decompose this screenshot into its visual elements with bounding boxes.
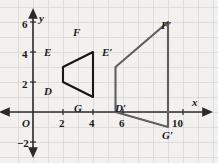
y-tick-label-6: 6 (22, 19, 28, 30)
y-axis-label: y (39, 13, 44, 24)
vertex-label-d: D (44, 86, 52, 97)
x-axis-label: x (192, 97, 198, 108)
vertex-label-g: G (74, 103, 82, 114)
y-tick-label-4: 4 (22, 49, 28, 60)
vertex-label-e: E (44, 47, 51, 58)
y-tick-label-neg2: −2 (17, 138, 29, 149)
coordinate-plot-svg (0, 0, 218, 163)
vertex-label-gp: G′ (162, 130, 173, 141)
coordinate-plane-figure: 6 4 2 −2 2 4 6 10 y x O EFDGE′F′D′G′ (0, 0, 218, 163)
x-tick-label-6: 6 (119, 118, 125, 129)
vertex-label-fp: F′ (161, 20, 171, 31)
vertex-label-ep: E′ (102, 47, 112, 58)
x-tick-label-4: 4 (89, 118, 95, 129)
x-tick-label-2: 2 (59, 118, 65, 129)
vertex-label-dp: D′ (115, 103, 126, 114)
vertex-label-f: F (73, 27, 80, 38)
x-tick-label-10: 10 (172, 118, 183, 129)
origin-label: O (22, 118, 30, 129)
y-tick-label-2: 2 (22, 79, 28, 90)
